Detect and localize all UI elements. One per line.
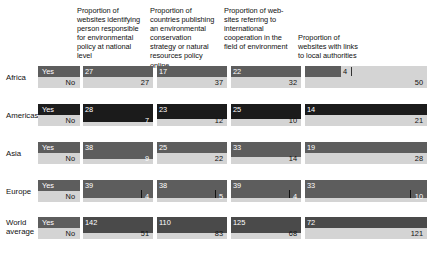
legend-no-asia: No xyxy=(38,153,80,164)
leader-tick-europe-c2 xyxy=(215,190,216,198)
value-yes-africa-c3: 22 xyxy=(233,66,241,77)
value-yes-world-c2: 110 xyxy=(159,217,171,228)
value-no-europe-c3: 4 xyxy=(293,191,297,202)
legend-no-europe: No xyxy=(38,191,80,202)
bar-yes-africa-c2 xyxy=(157,66,227,77)
bar-yes-americas-c1 xyxy=(83,104,153,122)
bar-cell-world-c2[interactable]: 110 83 xyxy=(157,217,227,239)
legend-yes-africa: Yes xyxy=(38,66,80,77)
value-no-world-c4: 121 xyxy=(411,228,423,239)
row-label-africa: Africa xyxy=(6,73,26,82)
value-yes-europe-c3: 39 xyxy=(233,180,241,191)
value-no-africa-c3: 32 xyxy=(289,77,297,88)
value-yes-africa-c4: 4 xyxy=(343,66,347,77)
value-yes-asia-c2: 25 xyxy=(159,142,167,153)
legend-no-world: No xyxy=(38,228,80,239)
value-no-asia-c3: 14 xyxy=(289,153,297,164)
bar-cell-africa-c1[interactable]: 27 27 xyxy=(83,66,153,88)
value-yes-africa-c1: 27 xyxy=(85,66,93,77)
bar-cell-americas-c2[interactable]: 23 12 xyxy=(157,104,227,126)
legend-yes-europe: Yes xyxy=(38,180,80,191)
bar-yes-europe-c2 xyxy=(157,180,227,198)
bar-yes-asia-c4 xyxy=(305,142,427,153)
bar-yes-africa-c1 xyxy=(83,66,153,77)
value-yes-europe-c4: 33 xyxy=(307,180,315,191)
bar-cell-americas-c4[interactable]: 14 21 xyxy=(305,104,427,126)
leader-tick-europe-c4 xyxy=(410,190,411,198)
value-yes-americas-c1: 28 xyxy=(85,104,93,115)
value-yes-asia-c1: 38 xyxy=(85,142,93,153)
value-yes-americas-c2: 23 xyxy=(159,104,167,115)
value-yes-americas-c3: 25 xyxy=(233,104,241,115)
bar-cell-africa-c3[interactable]: 22 32 xyxy=(231,66,301,88)
row-label-americas: Americas xyxy=(6,111,39,120)
row-label-world-line1: World xyxy=(6,218,26,227)
value-no-world-c2: 83 xyxy=(215,228,223,239)
bar-yes-world-c4 xyxy=(305,217,427,228)
bar-cell-asia-c3[interactable]: 33 14 xyxy=(231,142,301,164)
bar-cell-world-c4[interactable]: 72 121 xyxy=(305,217,427,239)
value-no-africa-c1: 27 xyxy=(141,77,149,88)
bar-cell-asia-c1[interactable]: 38 9 xyxy=(83,142,153,164)
bar-cell-africa-c2[interactable]: 17 37 xyxy=(157,66,227,88)
value-yes-europe-c2: 38 xyxy=(159,180,167,191)
column-header-1: Proportion of websites identifying perso… xyxy=(77,6,143,61)
row-label-world-average: World average xyxy=(6,218,34,237)
row-label-europe: Europe xyxy=(6,187,31,196)
value-no-europe-c4: 10 xyxy=(415,191,423,202)
bar-cell-world-c3[interactable]: 125 68 xyxy=(231,217,301,239)
value-no-asia-c2: 22 xyxy=(215,153,223,164)
bar-yes-asia-c2 xyxy=(157,142,227,153)
bar-cell-europe-c2[interactable]: 38 5 xyxy=(157,180,227,202)
value-no-americas-c3: 10 xyxy=(289,115,297,126)
legend-yes-asia: Yes xyxy=(38,142,80,153)
value-yes-europe-c1: 39 xyxy=(85,180,93,191)
bar-cell-asia-c2[interactable]: 25 22 xyxy=(157,142,227,164)
table-row-europe: Europe Yes No 39 4 38 5 39 4 xyxy=(0,180,434,208)
bar-yes-africa-c3 xyxy=(231,66,301,77)
table-row-africa: Africa Yes No 27 27 17 37 22 32 4 xyxy=(0,66,434,94)
leader-tick-europe-c3 xyxy=(289,190,290,198)
chart-column-headers: Proportion of websites identifying perso… xyxy=(0,0,434,62)
leader-tick-africa-c4 xyxy=(351,67,352,76)
value-yes-world-c1: 142 xyxy=(85,217,97,228)
value-no-asia-c4: 28 xyxy=(415,153,423,164)
bar-yes-americas-c4 xyxy=(305,104,427,115)
value-yes-americas-c4: 14 xyxy=(307,104,315,115)
value-no-europe-c1: 4 xyxy=(145,191,149,202)
column-header-3: Proportion of web-sites referring to int… xyxy=(224,6,290,51)
bar-cell-europe-c4[interactable]: 33 10 xyxy=(305,180,427,202)
legend-yes-americas: Yes xyxy=(38,104,80,115)
value-no-asia-c1: 9 xyxy=(145,153,149,164)
row-label-asia: Asia xyxy=(6,149,21,158)
bar-cell-world-c1[interactable]: 142 51 xyxy=(83,217,153,239)
bar-yes-europe-c1 xyxy=(83,180,153,198)
column-header-4: Proportion of websites with links to loc… xyxy=(298,33,364,60)
value-no-americas-c2: 12 xyxy=(215,115,223,126)
table-row-world-average: World average Yes No 142 51 110 83 125 6… xyxy=(0,217,434,245)
table-row-asia: Asia Yes No 38 9 25 22 33 14 19 28 xyxy=(0,142,434,170)
value-no-europe-c2: 5 xyxy=(219,191,223,202)
legend-no-americas: No xyxy=(38,115,80,126)
table-row-americas: Americas Yes No 28 7 23 12 25 10 14 xyxy=(0,104,434,132)
value-no-americas-c4: 21 xyxy=(415,115,423,126)
value-no-africa-c2: 37 xyxy=(215,77,223,88)
bar-yes-africa-c4 xyxy=(305,66,341,77)
bar-yes-europe-c3 xyxy=(231,180,301,198)
legend-yes-world: Yes xyxy=(38,217,80,228)
bar-yes-asia-c1 xyxy=(83,142,153,159)
value-no-americas-c1: 7 xyxy=(145,115,149,126)
bar-cell-europe-c1[interactable]: 39 4 xyxy=(83,180,153,202)
bar-cell-asia-c4[interactable]: 19 28 xyxy=(305,142,427,164)
bar-yes-europe-c4 xyxy=(305,180,427,198)
value-yes-asia-c4: 19 xyxy=(307,142,315,153)
bar-cell-americas-c3[interactable]: 25 10 xyxy=(231,104,301,126)
value-yes-world-c4: 72 xyxy=(307,217,315,228)
bar-cell-europe-c3[interactable]: 39 4 xyxy=(231,180,301,202)
bar-cell-americas-c1[interactable]: 28 7 xyxy=(83,104,153,126)
value-no-world-c1: 51 xyxy=(141,228,149,239)
environment-websites-bar-chart: Proportion of websites identifying perso… xyxy=(0,0,434,258)
row-label-world-line2: average xyxy=(6,227,34,236)
value-yes-asia-c3: 33 xyxy=(233,142,241,153)
bar-cell-africa-c4[interactable]: 4 50 xyxy=(305,66,427,88)
